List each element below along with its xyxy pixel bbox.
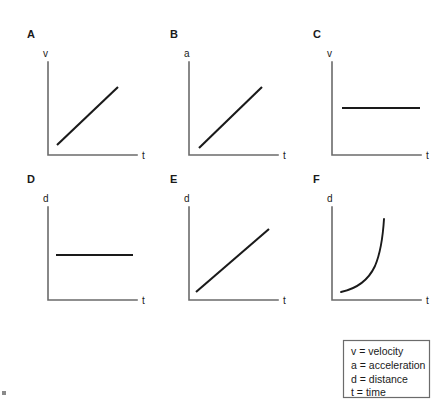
panel-b: B a t bbox=[170, 28, 286, 161]
panel-f: F d t bbox=[313, 173, 429, 306]
panel-a-y-axis-label: v bbox=[43, 48, 48, 59]
panel-a-letter: A bbox=[27, 28, 35, 40]
panel-b-y-axis-label: a bbox=[184, 48, 190, 59]
panel-e-y-axis-label: d bbox=[184, 193, 190, 204]
panel-d-y-axis-label: d bbox=[43, 193, 49, 204]
panel-f-data-curve bbox=[341, 219, 384, 292]
panel-f-axes bbox=[332, 207, 421, 300]
panel-e-data-line bbox=[196, 229, 269, 292]
panel-c-y-axis-label: v bbox=[327, 48, 332, 59]
panel-d-letter: D bbox=[27, 173, 35, 185]
panel-a: A v t bbox=[27, 28, 145, 161]
legend-item-distance: d = distance bbox=[351, 373, 408, 385]
panel-b-axes bbox=[189, 62, 278, 155]
figure-canvas: A v t B a t C v t D d t bbox=[0, 0, 448, 414]
panel-f-x-axis-label: t bbox=[426, 295, 429, 306]
panel-d: D d t bbox=[27, 173, 145, 306]
panel-b-data-line bbox=[199, 87, 262, 148]
panel-f-y-axis-label: d bbox=[327, 193, 333, 204]
legend: v = velocity a = acceleration d = distan… bbox=[344, 341, 430, 399]
panel-d-axes bbox=[48, 207, 137, 300]
panel-e-letter: E bbox=[170, 173, 177, 185]
legend-item-velocity: v = velocity bbox=[351, 345, 404, 357]
panel-e: E d t bbox=[170, 173, 286, 306]
panel-c: C v t bbox=[313, 28, 429, 161]
panel-e-x-axis-label: t bbox=[283, 295, 286, 306]
legend-item-time: t = time bbox=[351, 386, 386, 398]
panel-a-data-line bbox=[57, 87, 118, 145]
panel-b-x-axis-label: t bbox=[283, 150, 286, 161]
legend-item-acceleration: a = acceleration bbox=[351, 359, 426, 371]
panel-f-letter: F bbox=[313, 173, 320, 185]
scan-artifact-speck bbox=[2, 391, 6, 395]
panel-a-x-axis-label: t bbox=[142, 150, 145, 161]
panel-b-letter: B bbox=[170, 28, 178, 40]
panel-c-x-axis-label: t bbox=[426, 150, 429, 161]
panel-c-letter: C bbox=[313, 28, 321, 40]
panel-d-x-axis-label: t bbox=[142, 295, 145, 306]
